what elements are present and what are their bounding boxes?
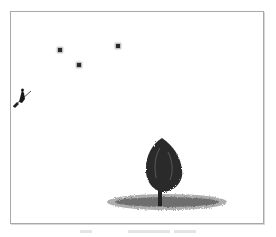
star-icon xyxy=(58,48,62,52)
flying-witch-icon xyxy=(10,86,34,110)
caption-line xyxy=(174,230,196,233)
caption-line xyxy=(80,230,92,233)
star-icon xyxy=(116,44,120,48)
figure-caption xyxy=(0,226,276,236)
tree-illustration xyxy=(100,134,235,216)
caption-line xyxy=(128,230,170,233)
star-icon xyxy=(77,63,81,67)
